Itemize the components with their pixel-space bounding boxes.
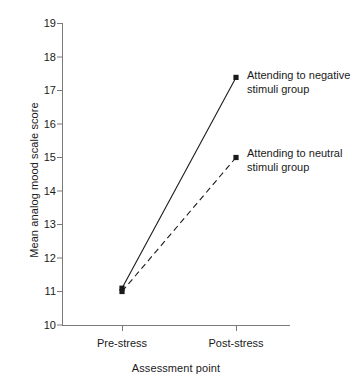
- series-label-neutral: Attending to neutral stimuli group: [247, 147, 342, 174]
- series-line-neutral: [122, 158, 236, 292]
- y-tick-marks: [57, 24, 62, 326]
- series-label-neutral-line2: stimuli group: [247, 161, 342, 175]
- series-label-negative-line1: Attending to negative: [247, 69, 350, 83]
- series-attending-to-neutral: [119, 155, 238, 294]
- line-chart: Mean analog mood scale score 19 18 17 16…: [0, 0, 356, 388]
- series-label-negative: Attending to negative stimuli group: [247, 69, 350, 96]
- series-label-negative-line2: stimuli group: [247, 83, 350, 97]
- data-point-negative-post-stress: [233, 75, 238, 80]
- series-line-negative: [122, 77, 236, 288]
- plot-area: [0, 0, 356, 388]
- data-point-neutral-pre-stress: [119, 289, 124, 294]
- data-point-neutral-post-stress: [233, 155, 238, 160]
- series-attending-to-negative: [119, 75, 238, 291]
- series-label-neutral-line1: Attending to neutral: [247, 147, 342, 161]
